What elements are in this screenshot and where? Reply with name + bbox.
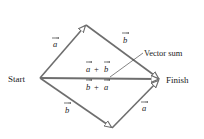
svg-text:a: a [142, 103, 146, 113]
label-a-upper: a [52, 38, 59, 49]
vector-b-lower [40, 78, 111, 127]
vector-sum [40, 78, 158, 79]
label-b-upper: b [122, 33, 129, 45]
svg-text:b: b [104, 64, 108, 74]
vector-addition-diagram: Start Finish Vector sum a b b a a + b b … [0, 0, 204, 139]
start-label: Start [8, 74, 25, 84]
svg-text:b: b [65, 105, 69, 115]
svg-text:a: a [104, 82, 108, 92]
svg-text:a: a [53, 39, 57, 49]
svg-text:+: + [94, 64, 99, 74]
label-b-lower: b [64, 103, 71, 115]
finish-label: Finish [166, 75, 189, 85]
vector-a-upper [40, 26, 85, 78]
svg-text:b: b [123, 35, 127, 45]
vector-sum-label: Vector sum [144, 48, 183, 58]
svg-text:b: b [86, 82, 90, 92]
label-a-lower: a [141, 102, 148, 113]
label-a-plus-b: a + b [86, 62, 110, 74]
label-b-plus-a: b + a [86, 80, 110, 92]
vector-sum-leader-line [110, 53, 143, 77]
vector-a-lower [112, 81, 158, 128]
svg-text:+: + [94, 82, 99, 92]
svg-text:a: a [86, 64, 90, 74]
